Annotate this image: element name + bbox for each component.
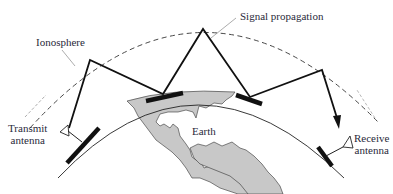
ionosphere-label: Ionosphere xyxy=(36,36,85,48)
signal-arrowhead xyxy=(333,115,341,129)
transmit-antenna-label-line1: Transmit xyxy=(8,122,47,134)
transmit-antenna-label: Transmit antenna xyxy=(8,122,47,146)
receive-antenna-label-line2: antenna xyxy=(354,144,389,156)
ground-segment-transmit xyxy=(67,128,99,163)
receive-antenna-icon xyxy=(326,136,353,156)
receive-antenna-label: Receive antenna xyxy=(354,132,389,156)
propagation-diagram xyxy=(0,0,393,194)
earth-label: Earth xyxy=(192,125,216,137)
signal-propagation-label: Signal propagation xyxy=(240,10,323,22)
receive-antenna-label-line1: Receive xyxy=(354,132,389,144)
transmit-antenna-label-line2: antenna xyxy=(8,134,47,146)
signal-path xyxy=(69,29,337,128)
receive-leader xyxy=(357,90,375,118)
transmit-antenna-icon xyxy=(60,125,82,142)
ionosphere-leader xyxy=(62,50,75,66)
